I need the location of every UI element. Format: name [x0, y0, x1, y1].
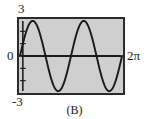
y-zero-label: 0 — [7, 49, 14, 62]
figure-caption: (B) — [0, 103, 149, 118]
plot-canvas — [19, 19, 123, 93]
y-max-label: 3 — [18, 2, 25, 15]
plot-frame — [17, 17, 125, 95]
sine-graph-figure: 3 0 -3 2π (B) — [0, 0, 149, 119]
x-max-label: 2π — [127, 49, 140, 62]
